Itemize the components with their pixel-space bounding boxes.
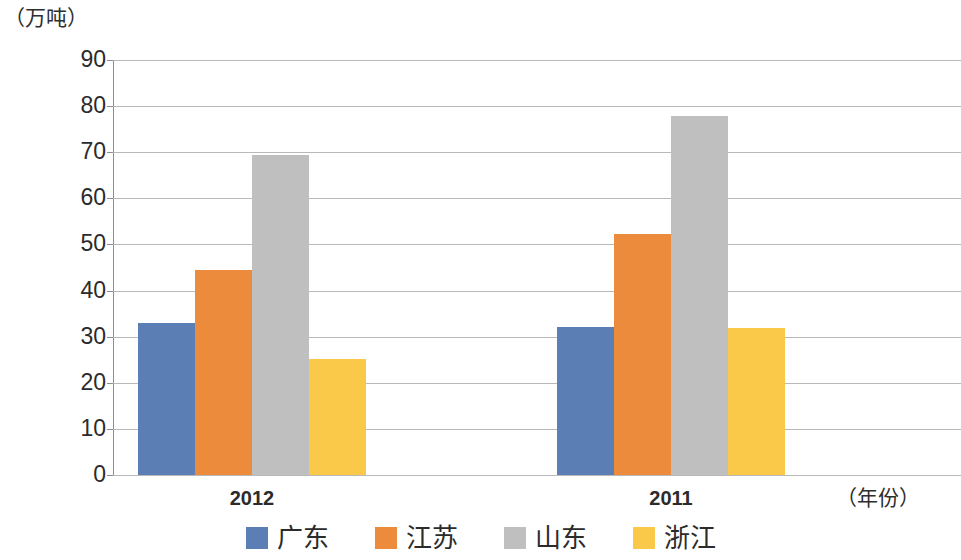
x-axis-group-label: 2012 [138, 487, 366, 509]
bar [138, 323, 195, 475]
y-axis-unit-label: （万吨） [4, 6, 88, 30]
legend-item[interactable]: 广东 [246, 524, 329, 552]
y-axis-tick-mark [107, 244, 113, 245]
legend-color-swatch [633, 527, 655, 549]
gridline [113, 60, 961, 61]
gridline [113, 475, 961, 476]
y-axis-tick-mark [107, 60, 113, 61]
legend-item[interactable]: 江苏 [375, 524, 458, 552]
y-axis-line [113, 60, 114, 476]
x-axis-group-label: 2011 [557, 487, 785, 509]
y-axis-tick-mark [107, 429, 113, 430]
y-axis-tick-mark [107, 337, 113, 338]
y-axis-tick-label: 90 [20, 48, 106, 71]
y-axis-tick-mark [107, 475, 113, 476]
y-axis-tick-label: 30 [20, 325, 106, 348]
bar [614, 234, 671, 475]
y-axis-tick-label: 40 [20, 279, 106, 302]
y-axis-tick-mark [107, 198, 113, 199]
gridline [113, 198, 961, 199]
legend-label: 山东 [535, 524, 587, 552]
bar [309, 359, 366, 475]
legend-color-swatch [375, 527, 397, 549]
y-axis-tick-label: 80 [20, 94, 106, 117]
bar-chart: （万吨） 9080706050403020100 20122011 （年份） 广… [0, 0, 961, 560]
gridline [113, 244, 961, 245]
plot-area [113, 60, 961, 475]
chart-legend: 广东江苏山东浙江 [0, 524, 961, 552]
gridline [113, 106, 961, 107]
legend-item[interactable]: 山东 [504, 524, 587, 552]
y-axis-tick-mark [107, 152, 113, 153]
gridline [113, 152, 961, 153]
y-axis-tick-labels: 9080706050403020100 [14, 60, 106, 476]
bar [557, 327, 614, 475]
x-axis-title: （年份） [836, 486, 920, 510]
bar [728, 328, 785, 475]
y-axis-tick-label: 70 [20, 140, 106, 163]
y-axis-tick-mark [107, 383, 113, 384]
legend-label: 广东 [277, 524, 329, 552]
y-axis-tick-label: 0 [20, 463, 106, 486]
legend-label: 浙江 [664, 524, 716, 552]
bar [671, 116, 728, 475]
legend-item[interactable]: 浙江 [633, 524, 716, 552]
y-axis-tick-label: 10 [20, 417, 106, 440]
y-axis-tick-label: 50 [20, 232, 106, 255]
legend-color-swatch [504, 527, 526, 549]
bar [252, 155, 309, 475]
y-axis-tick-mark [107, 291, 113, 292]
legend-label: 江苏 [406, 524, 458, 552]
y-axis-tick-label: 60 [20, 186, 106, 209]
y-axis-tick-label: 20 [20, 371, 106, 394]
bar [195, 270, 252, 475]
y-axis-tick-mark [107, 106, 113, 107]
legend-color-swatch [246, 527, 268, 549]
